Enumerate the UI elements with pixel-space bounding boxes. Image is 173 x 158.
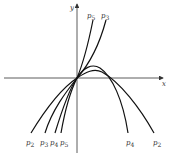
curve-p4 [55,66,128,133]
curve-p2 [31,70,154,133]
curve-p5-lower [61,78,77,133]
label-bottom-p5-left: p5 [60,139,68,148]
label-top-p3: p3 [101,12,109,21]
label-bottom-p4-left: p4 [50,139,58,148]
diagram-canvas: x y p5 p3 p2 p3 p4 p5 p4 p2 [0,0,173,158]
x-axis-label: x [162,80,166,88]
label-bottom-p3-left: p3 [40,139,48,148]
label-top-p5: p5 [87,12,95,21]
y-axis-label: y [69,4,75,12]
label-bottom-p2-left: p2 [26,139,34,148]
label-bottom-p2-right: p2 [153,139,161,148]
label-bottom-p4-right: p4 [126,139,134,148]
